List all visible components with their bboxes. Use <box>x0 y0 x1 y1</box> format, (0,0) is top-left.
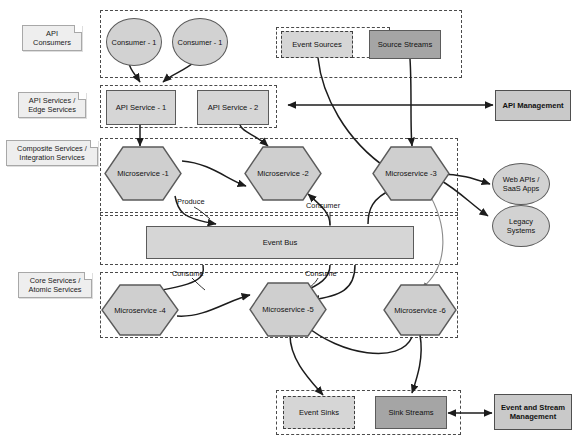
note-composite-services-label: Composite Services / Integration Service… <box>17 144 87 162</box>
note-api-consumers: API Consumers <box>22 25 82 51</box>
node-sink-streams-label: Sink Streams <box>388 408 433 417</box>
node-legacy-systems[interactable]: Legacy Systems <box>492 205 550 247</box>
node-event-and-stream-management[interactable]: Event and Stream Management <box>494 394 572 430</box>
edge-label-consume-left-text: Consume <box>172 269 204 278</box>
node-microservice-3[interactable]: Microservice -3 <box>372 146 450 201</box>
node-source-streams[interactable]: Source Streams <box>369 30 441 59</box>
node-microservice-2[interactable]: Microservice -2 <box>244 146 322 201</box>
edge-label-produce-text: Produce <box>177 197 205 206</box>
edge-label-consume-right: Consume <box>305 270 337 279</box>
node-source-streams-label: Source Streams <box>378 40 432 49</box>
node-event-sources-label: Event Sources <box>292 40 341 49</box>
note-composite-services: Composite Services / Integration Service… <box>6 140 98 166</box>
node-microservice-6[interactable]: Microservice -6 <box>383 284 457 336</box>
node-api-service-2[interactable]: API Service - 2 <box>197 90 269 125</box>
edge-label-consumer: Consumer <box>306 202 340 211</box>
node-event-and-stream-management-label: Event and Stream Management <box>501 403 565 422</box>
node-microservice-4[interactable]: Microservice -4 <box>101 284 179 336</box>
note-api-services: API Services / Edge Services <box>18 92 86 118</box>
edge-label-consumer-text: Consumer <box>306 201 340 210</box>
node-event-sinks[interactable]: Event Sinks <box>283 396 355 429</box>
node-api-management[interactable]: API Management <box>495 90 571 121</box>
node-event-sinks-label: Event Sinks <box>299 408 339 417</box>
node-microservice-1[interactable]: Microservice -1 <box>104 146 182 201</box>
node-api-service-1[interactable]: API Service - 1 <box>106 90 176 125</box>
node-api-service-1-label: API Service - 1 <box>116 103 167 112</box>
note-core-services-label: Core Services / Atomic Services <box>29 276 82 294</box>
edge-label-produce: Produce <box>177 198 205 207</box>
node-sink-streams[interactable]: Sink Streams <box>375 396 447 429</box>
node-consumer-1-label: Consumer - 1 <box>112 38 157 47</box>
node-api-service-2-label: API Service - 2 <box>208 103 259 112</box>
node-web-apis-saas-apps[interactable]: Web APIs / SaaS Apps <box>492 163 550 205</box>
note-api-consumers-label: API Consumers <box>33 29 71 47</box>
node-microservice-5[interactable]: Microservice -5 <box>249 282 327 337</box>
node-event-sources[interactable]: Event Sources <box>281 31 353 58</box>
node-web-apis-saas-apps-label: Web APIs / SaaS Apps <box>503 175 540 193</box>
node-consumer-2[interactable]: Consumer - 1 <box>172 18 228 66</box>
note-core-services: Core Services / Atomic Services <box>18 272 92 298</box>
node-event-bus[interactable]: Event Bus <box>146 226 414 259</box>
note-api-services-label: API Services / Edge Services <box>28 96 76 114</box>
edge-label-consume-left: Consume <box>172 270 204 279</box>
edge-label-consume-right-text: Consume <box>305 269 337 278</box>
node-event-bus-label: Event Bus <box>263 238 298 247</box>
node-legacy-systems-label: Legacy Systems <box>507 217 535 235</box>
node-consumer-2-label: Consumer - 1 <box>178 38 223 47</box>
architecture-diagram-canvas: API Consumers API Services / Edge Servic… <box>0 0 578 448</box>
node-api-management-label: API Management <box>502 101 563 110</box>
node-consumer-1[interactable]: Consumer - 1 <box>106 18 162 66</box>
